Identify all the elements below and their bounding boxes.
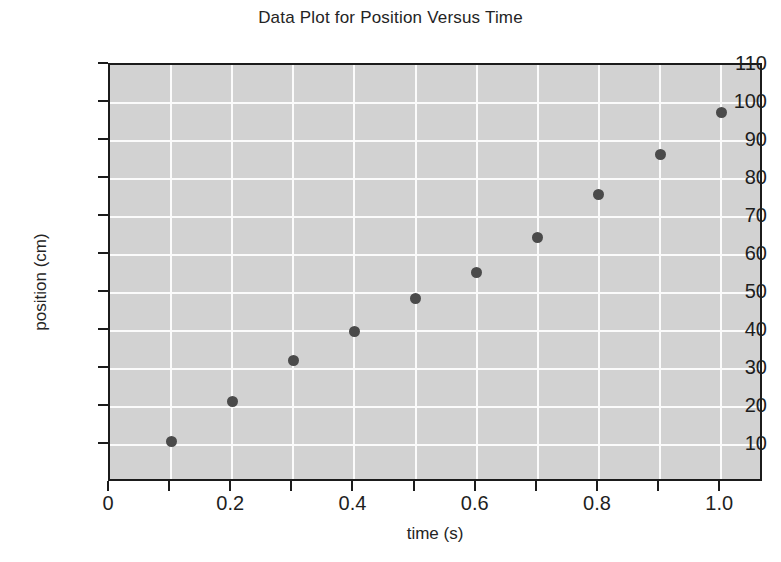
plot-area xyxy=(108,63,762,481)
y-axis-tick-label: 50 xyxy=(689,280,781,303)
data-point xyxy=(410,293,421,304)
data-point xyxy=(655,149,666,160)
x-axis-tick xyxy=(229,481,231,491)
data-point xyxy=(593,189,604,200)
data-point xyxy=(288,355,299,366)
x-axis-tick xyxy=(168,481,170,491)
chart-figure: Data Plot for Position Versus Time 00.20… xyxy=(0,0,781,562)
scatter-points xyxy=(110,65,760,479)
y-axis-tick xyxy=(98,138,108,140)
x-axis-tick-label: 0.8 xyxy=(557,492,637,515)
data-point xyxy=(532,232,543,243)
x-axis-tick-label: 0.6 xyxy=(435,492,515,515)
y-axis-tick xyxy=(98,442,108,444)
x-axis-tick-label: 0.4 xyxy=(312,492,392,515)
y-axis-tick xyxy=(98,290,108,292)
y-axis-tick-label: 110 xyxy=(689,52,781,75)
y-axis-tick xyxy=(98,404,108,406)
x-axis-tick-label: 1.0 xyxy=(679,492,759,515)
y-axis-tick-label: 80 xyxy=(689,166,781,189)
y-axis-tick xyxy=(98,176,108,178)
data-point xyxy=(227,396,238,407)
x-axis-tick-label: 0 xyxy=(68,492,148,515)
y-axis-title: position (cm) xyxy=(31,162,51,402)
y-axis-tick-label: 60 xyxy=(689,242,781,265)
y-axis-tick-label: 90 xyxy=(689,128,781,151)
data-point xyxy=(471,267,482,278)
x-axis-title: time (s) xyxy=(108,524,762,544)
y-axis-tick xyxy=(98,252,108,254)
x-axis-tick xyxy=(413,481,415,491)
y-axis-tick xyxy=(98,328,108,330)
x-axis-tick xyxy=(351,481,353,491)
x-axis-tick xyxy=(535,481,537,491)
y-axis-tick-label: 10 xyxy=(689,432,781,455)
y-axis-tick xyxy=(98,214,108,216)
x-axis-tick-label: 0.2 xyxy=(190,492,270,515)
y-axis-tick-label: 70 xyxy=(689,204,781,227)
x-axis-tick xyxy=(107,481,109,491)
y-axis-tick xyxy=(98,366,108,368)
x-axis-tick xyxy=(718,481,720,491)
page-title: Data Plot for Position Versus Time xyxy=(0,8,781,28)
data-point xyxy=(349,326,360,337)
y-axis-tick xyxy=(98,100,108,102)
x-axis-tick xyxy=(657,481,659,491)
y-axis-tick-label: 100 xyxy=(689,90,781,113)
y-axis-tick-label: 40 xyxy=(689,318,781,341)
y-axis-tick xyxy=(98,62,108,64)
y-axis-tick-label: 30 xyxy=(689,356,781,379)
x-axis-tick xyxy=(474,481,476,491)
x-axis-tick xyxy=(596,481,598,491)
x-axis-tick xyxy=(290,481,292,491)
y-axis-tick-label: 20 xyxy=(689,394,781,417)
data-point xyxy=(166,436,177,447)
